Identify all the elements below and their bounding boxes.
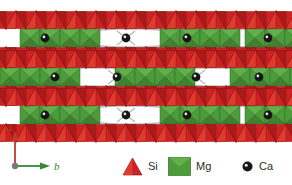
axis-b-arrow bbox=[15, 162, 50, 169]
axis-origin-dot bbox=[12, 163, 18, 169]
axis-b-label: b bbox=[54, 160, 60, 172]
mg-octahedron bbox=[245, 29, 265, 47]
mg-octahedron bbox=[290, 68, 292, 86]
axis-indicator: a b bbox=[2, 122, 64, 180]
bond-line bbox=[100, 123, 118, 124]
ca-atom bbox=[183, 34, 192, 43]
mg-octahedron bbox=[20, 29, 40, 47]
ca-atom bbox=[113, 73, 122, 82]
mg-octahedron bbox=[220, 29, 240, 47]
mg-octahedron bbox=[285, 29, 292, 47]
si-triangle-icon bbox=[122, 157, 143, 176]
mg-octahedron bbox=[200, 29, 220, 47]
ca-atom bbox=[41, 34, 50, 43]
mg-octahedron bbox=[270, 68, 290, 86]
ca-atom bbox=[51, 73, 60, 82]
legend-label-mg: Mg bbox=[196, 161, 211, 172]
mg-octahedron bbox=[200, 106, 220, 124]
mg-square-icon bbox=[168, 157, 191, 176]
legend-label-ca: Ca bbox=[259, 161, 273, 172]
axis-a-label: a bbox=[7, 122, 13, 133]
bond-line bbox=[142, 29, 160, 30]
mg-octahedron bbox=[155, 68, 175, 86]
legend-item-ca: Ca bbox=[241, 155, 273, 177]
ca-atom bbox=[264, 111, 273, 120]
bond-line bbox=[100, 46, 118, 47]
legend: Si Mg Ca bbox=[120, 152, 292, 182]
mg-octahedron bbox=[230, 68, 250, 86]
mg-octahedron bbox=[20, 68, 40, 86]
mg-octahedron bbox=[245, 106, 265, 124]
ca-atom bbox=[122, 34, 131, 43]
mg-octahedron bbox=[0, 68, 20, 86]
mg-octahedron bbox=[135, 68, 155, 86]
mg-octahedra-layer bbox=[0, 29, 292, 124]
mg-octahedron bbox=[60, 29, 80, 47]
ca-atom bbox=[183, 111, 192, 120]
ca-atom bbox=[192, 73, 201, 82]
bond-line bbox=[142, 46, 160, 47]
mg-octahedron bbox=[160, 106, 180, 124]
ca-atom bbox=[122, 111, 131, 120]
crystal-structure-figure: a b Si Mg Ca bbox=[0, 0, 292, 185]
ca-circle-icon bbox=[241, 160, 254, 173]
mg-octahedron bbox=[285, 106, 292, 124]
ca-atom bbox=[264, 34, 273, 43]
mg-octahedron bbox=[160, 29, 180, 47]
legend-item-si: Si bbox=[122, 155, 158, 177]
legend-label-si: Si bbox=[148, 161, 158, 172]
mg-octahedron bbox=[60, 68, 80, 86]
mg-octahedron bbox=[220, 106, 240, 124]
mg-octahedron bbox=[80, 106, 100, 124]
ca-atom bbox=[255, 73, 264, 82]
mg-octahedron bbox=[80, 29, 100, 47]
axis-a-arrow bbox=[11, 131, 18, 166]
bond-line bbox=[142, 106, 160, 107]
ca-atom bbox=[41, 111, 50, 120]
bond-line bbox=[100, 106, 118, 107]
bond-line bbox=[142, 123, 160, 124]
legend-item-mg: Mg bbox=[168, 155, 211, 177]
bond-line bbox=[100, 29, 118, 30]
